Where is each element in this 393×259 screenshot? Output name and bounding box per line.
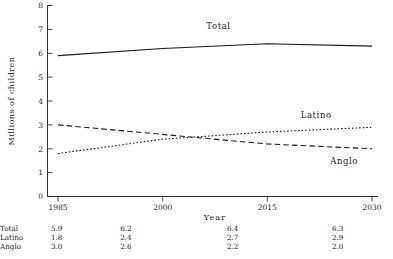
- series-line-anglo: [58, 125, 372, 149]
- y-axis-ticks: [48, 6, 53, 197]
- x-axis-ticks: [58, 197, 372, 202]
- table-row: Latino 1.8 2.4 2.7 2.9: [0, 233, 393, 242]
- x-axis-tick-labels: 1985 2000 2015 2030: [48, 203, 381, 212]
- table-row: Total 5.9 6.2 6.4 6.3: [0, 224, 393, 233]
- series-label-total: Total: [206, 21, 230, 31]
- table-cell: 6.4: [227, 224, 332, 233]
- table-cell: 2.2: [227, 242, 332, 251]
- table-row: Anglo 3.0 2.6 2.2 2.0: [0, 242, 393, 251]
- table-cell: 2.6: [120, 242, 227, 251]
- table-cell: 6.2: [120, 224, 227, 233]
- y-tick-label: 0: [38, 192, 43, 201]
- x-tick-label: 1985: [48, 203, 67, 212]
- y-tick-label: 8: [38, 1, 43, 10]
- table-row-label: Total: [0, 224, 51, 233]
- x-axis-title: Year: [203, 213, 227, 222]
- table-cell: 1.8: [51, 233, 120, 242]
- table-cell: 5.9: [51, 224, 120, 233]
- x-tick-label: 2030: [362, 203, 381, 212]
- table-cell: 2.4: [120, 233, 227, 242]
- table-cell: 6.3: [332, 224, 393, 233]
- table-cell: 3.0: [51, 242, 120, 251]
- table-cell: 2.7: [227, 233, 332, 242]
- series-line-total: [58, 44, 372, 56]
- y-axis-tick-labels: 0 1 2 3 4 5 6 7 8: [38, 1, 43, 201]
- y-tick-label: 3: [38, 121, 43, 130]
- table-row-label: Latino: [0, 233, 51, 242]
- y-tick-label: 6: [38, 49, 43, 58]
- line-chart: 0 1 2 3 4 5 6 7 8 1985 2000 2015 2030 Ye…: [0, 0, 393, 259]
- y-tick-label: 7: [38, 25, 43, 34]
- table-cell: 2.9: [332, 233, 393, 242]
- x-tick-label: 2000: [153, 203, 172, 212]
- chart-canvas: 0 1 2 3 4 5 6 7 8 1985 2000 2015 2030 Ye…: [0, 0, 393, 259]
- series-line-latino: [58, 127, 372, 153]
- y-tick-label: 1: [38, 168, 43, 177]
- table-cell: 2.0: [332, 242, 393, 251]
- y-tick-label: 2: [38, 145, 43, 154]
- y-tick-label: 4: [38, 97, 43, 106]
- table-row-label: Anglo: [0, 242, 51, 251]
- y-axis-title: Millions of children: [7, 57, 16, 146]
- series-label-latino: Latino: [301, 110, 332, 120]
- axis-spines: [48, 6, 379, 197]
- series-label-anglo: Anglo: [329, 156, 358, 166]
- y-tick-label: 5: [38, 73, 43, 82]
- data-table: Total 5.9 6.2 6.4 6.3 Latino 1.8 2.4 2.7…: [0, 224, 393, 252]
- x-tick-label: 2015: [258, 203, 277, 212]
